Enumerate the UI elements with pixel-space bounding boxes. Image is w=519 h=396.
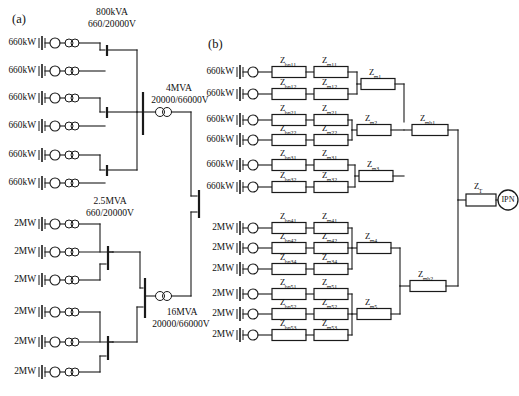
turbine-power-label: 660kW <box>198 182 234 191</box>
impedance-label-branch: Zbn52 <box>280 298 297 310</box>
bus-impedance-label: Zmb2 <box>418 270 434 282</box>
impedance-label-branch: Zbn22 <box>280 124 297 136</box>
turbine-power-label: 660kW <box>0 178 36 187</box>
turbine-power-label: 2MW <box>0 247 36 256</box>
turbine-power-label: 2MW <box>204 309 234 318</box>
turbine-power-label: 2MW <box>0 307 36 316</box>
turbine-symbol-a-l4 <box>39 305 100 319</box>
impedance-label-branch: Zbn31 <box>280 149 297 161</box>
turbine-power-label: 660kW <box>0 121 36 130</box>
turbine-symbol-a-u1 <box>39 36 100 50</box>
turbine-symbol-a-u3 <box>39 91 100 105</box>
impedance-label-branch: Zbn32 <box>280 171 297 183</box>
turbine-power-label: 660kW <box>198 115 234 124</box>
figure-root: (a) (b) 800kVA 660/20000V 2.5MVA 660/200… <box>0 0 519 396</box>
impedance-label-branch: Zbn12 <box>280 78 297 90</box>
feeder-impedance-label: Zm4 <box>365 232 378 244</box>
turbine-symbol-b-l3 <box>237 262 272 276</box>
impedance-label-branch: Zbn34 <box>280 253 297 265</box>
turbine-symbol-b-l4 <box>237 287 272 301</box>
xfmr-group-1-rating-line1: 800kVA <box>72 7 152 17</box>
grid-node-label: IPN <box>494 196 519 204</box>
turbine-symbol-a-u6 <box>39 176 105 190</box>
turbine-power-label: 660kW <box>0 93 36 102</box>
turbine-symbol-b-l6 <box>237 328 272 342</box>
turbine-symbol-b-u1 <box>237 65 272 79</box>
turbine-symbol-b-u2 <box>237 87 272 101</box>
impedance-label-main: Zm22 <box>322 124 338 136</box>
turbine-symbol-b-u3 <box>237 113 272 127</box>
turbine-symbol-a-u5 <box>39 148 100 162</box>
xfmr-group-2-rating-line1: 2.5MVA <box>70 196 150 206</box>
turbine-power-label: 660kW <box>198 160 234 169</box>
feeder-impedance-label: Zm2 <box>365 114 378 126</box>
impedance-label-main: Zm41 <box>322 212 338 224</box>
turbine-power-label: 660kW <box>0 66 36 75</box>
impedance-label-main: Zm21 <box>322 104 338 116</box>
impedance-label-main: Zm53 <box>322 319 338 331</box>
feeder-impedance-label: Zm5 <box>365 298 378 310</box>
turbine-symbol-a-l6 <box>39 365 100 379</box>
turbine-symbol-b-u4 <box>237 133 272 147</box>
impedance-label-branch: Zbn53 <box>280 319 297 331</box>
turbine-power-label: 2MW <box>0 367 36 376</box>
turbine-power-label: 660kW <box>198 67 234 76</box>
impedance-label-main: Zm12 <box>322 78 338 90</box>
turbine-power-label: 2MW <box>204 223 234 232</box>
impedance-label-branch: Zbn41 <box>280 212 297 224</box>
impedance-label-main: Zm52 <box>322 298 338 310</box>
impedance-label-branch: Zbn42 <box>280 232 297 244</box>
impedance-label-branch: Zbn51 <box>280 278 297 290</box>
turbine-symbol-a-u4 <box>39 119 105 133</box>
turbine-symbol-a-u2 <box>39 64 105 78</box>
turbine-power-label: 2MW <box>204 330 234 339</box>
impedance-label-main: Zm11 <box>322 56 337 68</box>
turbine-symbol-b-l2 <box>237 241 272 255</box>
turbine-power-label: 660kW <box>198 135 234 144</box>
turbine-symbol-b-u6 <box>237 180 272 194</box>
feeder-impedance-label: Zm1 <box>369 68 382 80</box>
bus-impedance-label: Zmb1 <box>420 114 436 126</box>
turbine-power-label: 2MW <box>0 275 36 284</box>
turbine-symbol-b-l5 <box>237 307 272 321</box>
turbine-power-label: 660kW <box>198 89 234 98</box>
turbine-symbol-a-l2 <box>39 245 113 259</box>
panel-a-tag: (a) <box>12 13 26 26</box>
main-xfmr-2-rating-line2: 20000/66000V <box>133 319 229 329</box>
impedance-label-main: Zm51 <box>322 278 338 290</box>
turbine-power-label: 2MW <box>204 243 234 252</box>
feeder-impedance-label: Zm3 <box>367 160 380 172</box>
turbine-symbol-a-l3 <box>39 273 100 287</box>
turbine-power-label: 2MW <box>0 219 36 228</box>
turbine-symbol-b-u5 <box>237 158 272 172</box>
transformer-impedance-label: ZT <box>474 182 483 194</box>
turbine-power-label: 660kW <box>0 150 36 159</box>
impedance-label-main: Zm31 <box>322 149 338 161</box>
xfmr-group-1-rating-line2: 660/20000V <box>60 19 164 29</box>
impedance-label-main: Zm42 <box>322 232 338 244</box>
turbine-symbol-a-l5 <box>39 335 113 349</box>
turbine-power-label: 660kW <box>0 38 36 47</box>
panel-b-tag: (b) <box>208 38 223 51</box>
impedance-label-branch: Zbn21 <box>280 104 297 116</box>
turbine-symbol-b-l1 <box>237 221 272 235</box>
impedance-label-branch: Zbn11 <box>280 56 297 68</box>
impedance-label-main: Zm34 <box>322 253 338 265</box>
turbine-power-label: 2MW <box>0 337 36 346</box>
impedance-label-main: Zm32 <box>322 171 338 183</box>
turbine-symbol-a-l1 <box>39 217 100 231</box>
turbine-power-label: 2MW <box>204 264 234 273</box>
turbine-power-label: 2MW <box>204 289 234 298</box>
xfmr-group-2-rating-line2: 660/20000V <box>58 208 162 218</box>
